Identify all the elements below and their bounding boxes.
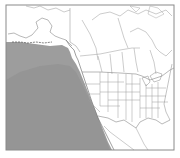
map-container xyxy=(0,0,180,158)
map-svg xyxy=(0,0,180,158)
